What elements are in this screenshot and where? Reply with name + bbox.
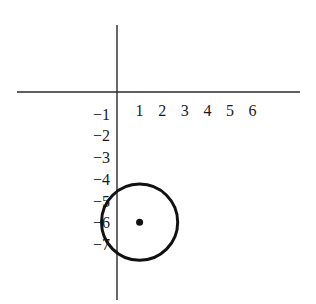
x-tick-labels: 123456 — [136, 102, 257, 119]
x-tick-label: 6 — [249, 102, 257, 119]
x-tick-label: 4 — [203, 102, 211, 119]
x-tick-label: 2 — [158, 102, 166, 119]
x-tick-label: 3 — [181, 102, 189, 119]
coordinate-plane: 123456 −1−2−3−4−5−6−7 — [0, 0, 316, 304]
x-tick-label: 1 — [136, 102, 144, 119]
center-point — [136, 219, 143, 226]
y-tick-label: −4 — [93, 171, 110, 188]
points — [136, 219, 143, 226]
y-tick-label: −3 — [93, 149, 110, 166]
y-tick-label: −1 — [93, 106, 110, 123]
y-tick-label: −2 — [93, 127, 110, 144]
x-tick-label: 5 — [226, 102, 234, 119]
